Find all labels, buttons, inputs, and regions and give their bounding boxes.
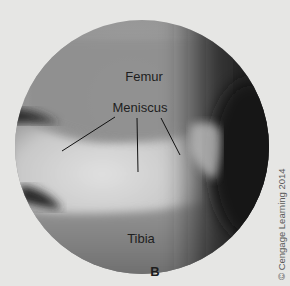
meniscus-label: Meniscus bbox=[113, 100, 168, 115]
panel-letter: B bbox=[150, 264, 159, 279]
copyright-credit: © Cengage Learning 2014 bbox=[276, 168, 287, 280]
femur-label: Femur bbox=[125, 69, 163, 84]
arthroscopic-knee-figure: Femur Meniscus Tibia B © Cengage Learnin… bbox=[0, 0, 290, 286]
tibia-label: Tibia bbox=[127, 231, 155, 246]
